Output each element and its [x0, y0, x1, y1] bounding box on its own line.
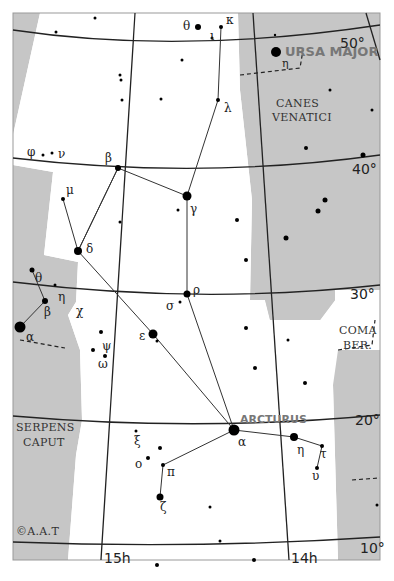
crb-theta-label: θ: [35, 272, 42, 284]
star-label-iota: ι: [210, 30, 215, 42]
star-label-phi: φ: [27, 146, 35, 158]
canes-venatici-label-2: VENATICI: [272, 112, 332, 125]
ra-14h-label: 14h: [291, 551, 318, 565]
dec-20-label: 20°: [355, 413, 380, 427]
star-label-theta: θ: [183, 20, 190, 32]
star-label-upsilon: υ: [312, 470, 319, 482]
serpens-label-2: CAPUT: [23, 437, 65, 450]
star-label-zeta: ζ: [160, 501, 167, 513]
copyright-label: ©A.A.T: [16, 526, 59, 539]
star-label-chi: χ: [76, 305, 83, 317]
serpens-label-1: SERPENS: [16, 422, 75, 435]
dec-40-label: 40°: [352, 162, 377, 176]
canes-venatici-label-1: CANES: [276, 98, 319, 111]
star-label-mu: μ: [66, 184, 74, 196]
crb-alpha-label: α: [26, 331, 34, 343]
star-label-omega: ω: [98, 358, 108, 370]
dec-10-label: 10°: [360, 541, 385, 555]
coma-ber-label-1: COMA: [339, 325, 377, 338]
star-label-alpha: α: [238, 436, 246, 448]
dec-50-label: 50°: [340, 36, 365, 50]
star-label-xi: ξ: [134, 435, 141, 447]
star-chart: URSA MAJOR CANES VENATICI COMA BER. SERP…: [0, 0, 394, 581]
star-label-delta: δ: [86, 243, 93, 255]
dec-30-label: 30°: [350, 287, 375, 301]
star-label-epsilon: ε: [139, 330, 145, 342]
coma-ber-label-2: BER.: [343, 340, 372, 353]
star-label-nu: ν: [58, 148, 65, 160]
star-label-gamma: γ: [190, 203, 197, 215]
star-label-tau: τ: [320, 448, 327, 460]
star-label-psi: ψ: [102, 340, 111, 352]
star-label-kappa: κ: [226, 14, 234, 26]
star-label-eta: η: [297, 444, 304, 456]
ra-15h-label: 15h: [104, 551, 131, 565]
star-label-beta: β: [105, 152, 112, 164]
star-label-lambda: λ: [224, 102, 232, 114]
star-label-rho: ρ: [193, 284, 200, 296]
star-label-sigma: σ: [166, 300, 174, 312]
uma-eta-label: η: [282, 58, 289, 69]
arcturus-label: ARCTURUS: [240, 413, 307, 426]
crb-beta-label: β: [44, 306, 51, 318]
crb-eta-label: η: [58, 291, 65, 303]
star-label-pi: π: [167, 466, 175, 478]
star-label-omicron: ο: [135, 458, 142, 470]
